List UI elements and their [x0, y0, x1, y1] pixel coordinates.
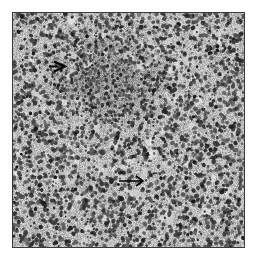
- tissue-section-image: [13, 13, 244, 247]
- micrograph-frame: [12, 12, 245, 248]
- micrograph-figure: [0, 0, 255, 260]
